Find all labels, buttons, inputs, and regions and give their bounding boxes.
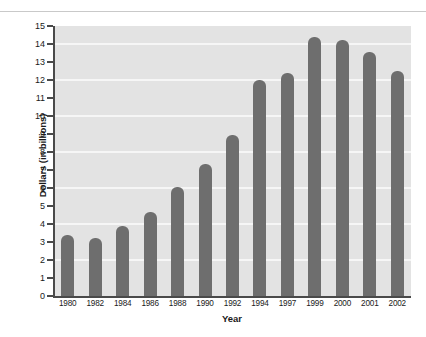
y-axis-tick-label: 10 (5, 112, 45, 121)
bar (116, 226, 129, 296)
y-axis-tick-label: 12 (5, 76, 45, 85)
y-axis-tick-label: 9 (5, 130, 45, 139)
y-axis-tick (47, 43, 53, 45)
y-axis-tick-label: 3 (5, 238, 45, 247)
y-axis-tick-label: 11 (5, 94, 45, 103)
x-axis-tick-label: 1982 (81, 299, 108, 309)
x-axis-tick-label: 1994 (246, 299, 273, 309)
y-axis-tick-label: 5 (5, 202, 45, 211)
bar (336, 40, 349, 296)
x-axis-tick-label: 1990 (191, 299, 218, 309)
y-axis-tick-label: 8 (5, 148, 45, 157)
y-axis-tick (47, 97, 53, 99)
x-axis-tick-label: 1984 (109, 299, 136, 309)
y-axis-tick (47, 259, 53, 261)
y-axis-tick-label: 6 (5, 184, 45, 193)
y-axis-tick (47, 133, 53, 135)
x-axis-tick-label: 1992 (219, 299, 246, 309)
y-axis-tick (47, 241, 53, 243)
bar (308, 37, 321, 296)
y-axis-tick-label: 14 (5, 40, 45, 49)
y-axis-tick-label: 0 (5, 292, 45, 301)
gridline (54, 43, 411, 45)
gridline (54, 79, 411, 81)
x-axis-tick-label: 2000 (329, 299, 356, 309)
bar (281, 73, 294, 296)
bar (89, 238, 102, 296)
x-axis-tick-label: 1999 (301, 299, 328, 309)
y-axis-tick (47, 277, 53, 279)
gridline (54, 115, 411, 117)
x-axis-title: Year (48, 313, 416, 324)
bar (199, 164, 212, 296)
top-divider-rule (0, 11, 426, 12)
bar (391, 71, 404, 296)
y-axis-tick-label: 4 (5, 220, 45, 229)
y-axis-tick (47, 169, 53, 171)
bar (226, 135, 239, 296)
x-axis-tick-label: 1986 (136, 299, 163, 309)
bar (144, 212, 157, 296)
y-axis-tick (47, 205, 53, 207)
y-axis-tick-label: 15 (5, 22, 45, 31)
x-axis-tick-label: 1980 (54, 299, 81, 309)
y-axis-tick-label: 1 (5, 274, 45, 283)
y-axis-tick-label: 13 (5, 58, 45, 67)
bar-chart-figure: Dollars (in billions) 012345678910111213… (0, 0, 426, 337)
y-axis-tick (47, 115, 53, 117)
bar (171, 187, 184, 296)
x-axis-tick-label: 2002 (384, 299, 411, 309)
x-axis-tick-label: 1988 (164, 299, 191, 309)
y-axis-tick (47, 25, 53, 27)
bar (253, 80, 266, 296)
x-axis-spine (53, 296, 411, 298)
x-axis-tick-label: 1997 (274, 299, 301, 309)
bar (363, 52, 376, 296)
y-axis-spine (53, 26, 55, 297)
y-axis-tick (47, 223, 53, 225)
y-axis-tick-label: 7 (5, 166, 45, 175)
y-axis-tick-label: 2 (5, 256, 45, 265)
y-axis-tick (47, 187, 53, 189)
bar (61, 235, 74, 296)
y-axis-tick (47, 79, 53, 81)
y-axis-tick (47, 295, 53, 297)
y-axis-tick (47, 151, 53, 153)
y-axis-tick (47, 61, 53, 63)
x-axis-tick-label: 2001 (356, 299, 383, 309)
